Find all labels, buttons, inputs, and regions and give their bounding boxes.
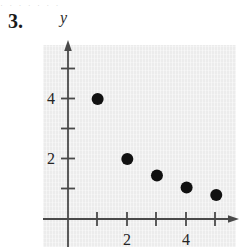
data-point	[92, 93, 104, 105]
y-axis-arrowhead-icon	[64, 40, 72, 51]
data-point-group	[92, 93, 223, 201]
y-tick-label-4: 4	[47, 90, 55, 107]
data-point	[210, 189, 222, 201]
scatter-plot: 2 4 2 4	[0, 0, 246, 251]
data-point	[121, 153, 133, 165]
data-point	[151, 170, 163, 182]
y-tick-label-2: 2	[47, 150, 55, 167]
x-axis-arrowhead-icon	[228, 215, 239, 223]
y-axis	[64, 40, 72, 247]
x-tick-label-4: 4	[182, 231, 190, 248]
data-point	[181, 182, 193, 194]
x-axis	[43, 215, 239, 223]
x-tick-label-2: 2	[123, 231, 131, 248]
